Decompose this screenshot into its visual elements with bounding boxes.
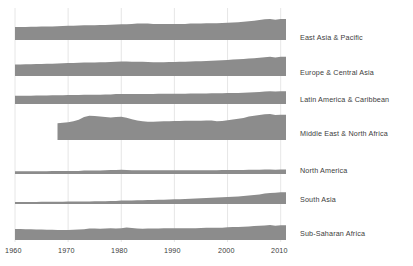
series-label-sub-saharan-africa: Sub-Saharan Africa: [300, 230, 365, 237]
small-multiples-area-chart: East Asia & Pacific Europe & Central Asi…: [0, 0, 413, 266]
series-label-south-asia: South Asia: [300, 196, 336, 203]
x-axis-tick-1980: 1980: [111, 247, 128, 254]
area-series-sub-saharan-africa: [15, 225, 286, 240]
x-axis-tick-2000: 2000: [218, 247, 235, 254]
series-label-middle-east-north-africa: Middle East & North Africa: [300, 130, 388, 137]
series-label-north-america: North America: [300, 167, 348, 174]
series-label-latin-america-caribbean: Latin America & Caribbean: [300, 96, 389, 103]
x-axis-tick-1960: 1960: [5, 247, 22, 254]
x-axis-tick-1970: 1970: [58, 247, 75, 254]
area-series-group: [15, 19, 286, 240]
area-series-east-asia-pacific: [15, 19, 286, 40]
x-axis-tick-2010: 2010: [271, 247, 288, 254]
series-label-europe-central-asia: Europe & Central Asia: [300, 69, 374, 76]
area-series-north-america: [15, 170, 286, 174]
series-label-east-asia-pacific: East Asia & Pacific: [300, 34, 363, 41]
area-series-europe-central-asia: [15, 57, 286, 76]
area-series-latin-america-caribbean: [15, 91, 286, 104]
area-series-middle-east-north-africa: [58, 114, 286, 140]
area-series-south-asia: [15, 192, 286, 204]
x-axis-tick-1990: 1990: [164, 247, 181, 254]
